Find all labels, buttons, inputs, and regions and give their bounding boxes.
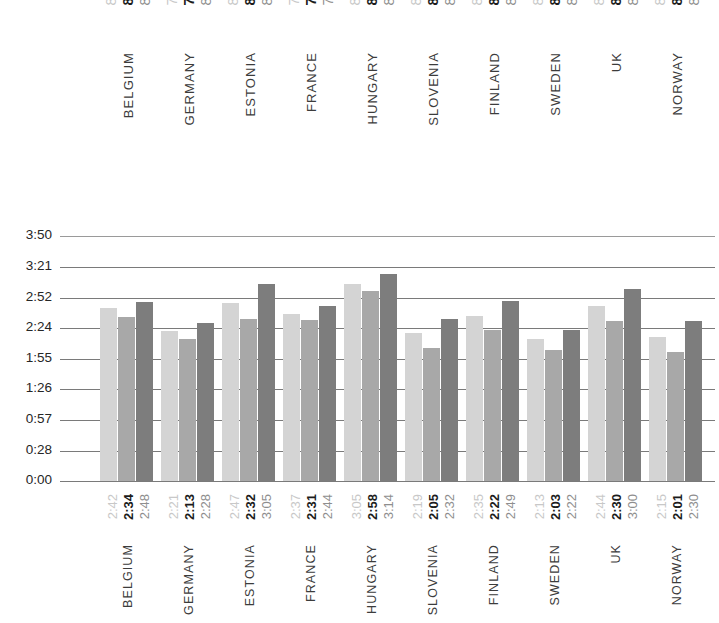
bottom-value: 2:22 — [565, 494, 578, 519]
bottom-value: 2:19 — [411, 494, 424, 519]
bottom-group-germany: 2:212:132:28GERMANY — [161, 492, 217, 623]
bottom-value: 2:01 — [671, 494, 684, 520]
bar-norway-series-1 — [649, 337, 666, 481]
top-value: 76 — [304, 0, 318, 6]
bottom-value-row: 2:442:303:00 — [588, 494, 644, 542]
top-value: 87 — [626, 0, 640, 6]
top-value: 77 — [287, 0, 301, 6]
bar-hungary-series-1 — [344, 284, 361, 481]
top-country-label: BELGIUM — [122, 52, 135, 118]
bottom-value: 2:44 — [321, 494, 334, 519]
top-country-label-wrap: BELGIUM — [100, 52, 156, 172]
bar-group-estonia — [222, 236, 278, 481]
bottom-value: 2:42 — [106, 494, 119, 519]
top-values-panel: 848485BELGIUM787680GERMANY858686ESTONIA7… — [0, 0, 719, 200]
bottom-group-slovenia: 2:192:052:32SLOVENIA — [405, 492, 461, 623]
bottom-country-label-wrap: SWEDEN — [527, 544, 583, 623]
top-group-slovenia: 858387SLOVENIA — [405, 0, 461, 200]
bar-group-belgium — [100, 236, 156, 481]
y-axis-tick-label: 3:21 — [0, 258, 52, 273]
top-country-label: UK — [610, 52, 623, 72]
bottom-country-label-wrap: UK — [588, 544, 644, 623]
bottom-value: 2:44 — [594, 494, 607, 519]
bar-france-series-3 — [319, 306, 336, 481]
bottom-country-label-wrap: FRANCE — [283, 544, 339, 623]
top-value-row: 777678 — [283, 0, 339, 42]
top-value: 83 — [653, 0, 667, 6]
top-country-label: FRANCE — [305, 52, 318, 112]
bottom-value: 2:03 — [549, 494, 562, 520]
bottom-value: 3:14 — [382, 494, 395, 519]
bottom-value: 2:31 — [305, 494, 318, 520]
top-country-label-wrap: GERMANY — [161, 52, 217, 172]
bar-hungary-series-3 — [380, 274, 397, 481]
bottom-value-row: 2:372:312:44 — [283, 494, 339, 542]
bottom-value: 2:30 — [687, 494, 700, 519]
bottom-group-estonia: 2:472:323:05ESTONIA — [222, 492, 278, 623]
top-value: 82 — [670, 0, 684, 6]
bottom-country-label: BELGIUM — [122, 544, 135, 608]
top-group-france: 777678FRANCE — [283, 0, 339, 200]
top-value: 83 — [565, 0, 579, 6]
top-value: 76 — [182, 0, 196, 6]
bottom-value: 2:34 — [122, 494, 135, 520]
top-country-label-wrap: NORWAY — [649, 52, 705, 172]
top-country-label: SWEDEN — [549, 52, 562, 116]
bar-group-germany — [161, 236, 217, 481]
bottom-country-label: FINLAND — [488, 544, 501, 605]
bottom-country-label-wrap: BELGIUM — [100, 544, 156, 623]
top-value: 84 — [104, 0, 118, 6]
bottom-country-label-wrap: NORWAY — [649, 544, 705, 623]
top-value: 82 — [531, 0, 545, 6]
bottom-country-label-wrap: GERMANY — [161, 544, 217, 623]
top-country-label-wrap: HUNGARY — [344, 52, 400, 172]
bottom-value: 2:37 — [289, 494, 302, 519]
top-country-label-wrap: SLOVENIA — [405, 52, 461, 172]
bar-france-series-1 — [283, 314, 300, 481]
bar-uk-series-1 — [588, 306, 605, 481]
bar-slovenia-series-3 — [441, 319, 458, 481]
bottom-value: 2:28 — [199, 494, 212, 519]
bottom-country-label-wrap: HUNGARY — [344, 544, 400, 623]
bar-sweden-series-3 — [563, 330, 580, 481]
bar-belgium-series-1 — [100, 308, 117, 481]
bar-group-norway — [649, 236, 705, 481]
bottom-values-panel: 2:422:342:48BELGIUM2:212:132:28GERMANY2:… — [0, 492, 719, 623]
bottom-value-row: 2:192:052:32 — [405, 494, 461, 542]
bottom-group-finland: 2:352:222:49FINLAND — [466, 492, 522, 623]
top-country-label-wrap: FRANCE — [283, 52, 339, 172]
y-axis-tick-label: 0:28 — [0, 442, 52, 457]
bottom-country-label-wrap: FINLAND — [466, 544, 522, 623]
top-value: 80 — [199, 0, 213, 6]
top-country-label: FINLAND — [488, 52, 501, 115]
bar-estonia-series-1 — [222, 303, 239, 481]
top-value-row: 858686 — [222, 0, 278, 42]
bottom-value: 2:32 — [443, 494, 456, 519]
top-value: 85 — [226, 0, 240, 6]
bottom-value: 2:58 — [366, 494, 379, 520]
bottom-country-label: GERMANY — [183, 544, 196, 615]
top-value-row: 828183 — [527, 0, 583, 42]
bottom-value: 2:21 — [167, 494, 180, 519]
top-value: 86 — [504, 0, 518, 6]
bar-estonia-series-3 — [258, 284, 275, 481]
gridline — [60, 481, 715, 482]
bottom-value: 2:30 — [610, 494, 623, 520]
bar-sweden-series-1 — [527, 339, 544, 481]
top-value: 86 — [609, 0, 623, 6]
top-country-label-wrap: UK — [588, 52, 644, 172]
top-group-belgium: 848485BELGIUM — [100, 0, 156, 200]
top-value-row: 787680 — [161, 0, 217, 42]
top-group-norway: 838284NORWAY — [649, 0, 705, 200]
top-value: 87 — [382, 0, 396, 6]
bottom-value: 2:13 — [533, 494, 546, 519]
bar-finland-series-2 — [484, 330, 501, 481]
bar-group-uk — [588, 236, 644, 481]
bar-belgium-series-3 — [136, 302, 153, 481]
top-value-row: 878687 — [588, 0, 644, 42]
bottom-value: 3:05 — [350, 494, 363, 519]
bottom-country-label: ESTONIA — [244, 544, 257, 606]
bottom-country-label: SLOVENIA — [427, 544, 440, 615]
bottom-value-row: 2:422:342:48 — [100, 494, 156, 542]
top-value: 84 — [121, 0, 135, 6]
